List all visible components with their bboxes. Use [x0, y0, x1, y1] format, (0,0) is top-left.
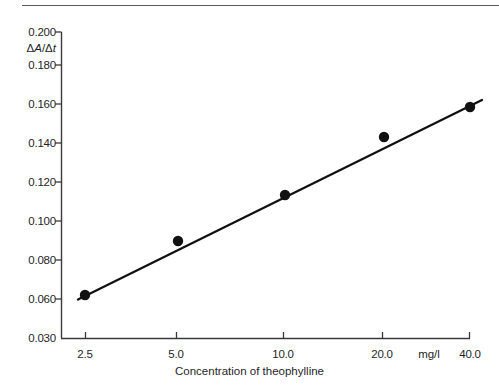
y-tick-marks [55, 32, 62, 299]
figure-container: 0.200 ΔA/Δt 0.180 0.160 0.140 0.120 0.10… [0, 0, 499, 392]
x-tick-marks [86, 332, 470, 339]
plot-area [0, 0, 499, 392]
regression-fit-line [78, 100, 482, 300]
data-point-5 [465, 102, 475, 112]
data-point-4 [379, 132, 389, 142]
data-point-2 [173, 236, 183, 246]
data-point-1 [80, 290, 90, 300]
data-point-3 [280, 190, 290, 200]
